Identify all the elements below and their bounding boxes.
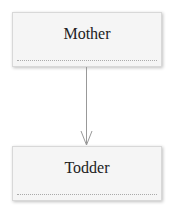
class-name: Todder bbox=[13, 159, 161, 177]
class-box-todder[interactable]: Todder bbox=[12, 146, 162, 201]
attribute-divider bbox=[17, 194, 157, 195]
